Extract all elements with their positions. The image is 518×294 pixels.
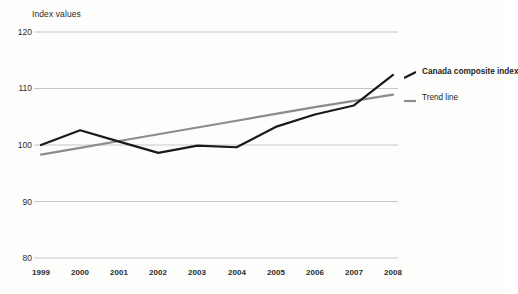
series-canada-composite-index xyxy=(41,75,393,153)
legend-item-trend-line: Trend line xyxy=(404,92,458,102)
legend-item-canada-composite-index: Canada composite index xyxy=(404,66,518,76)
legend-line-swatch-icon xyxy=(404,92,416,102)
legend-label-canada-composite-index: Canada composite index xyxy=(422,67,518,76)
gridlines xyxy=(34,32,398,258)
legend-line-swatch-icon xyxy=(404,66,416,76)
legend-label-trend-line: Trend line xyxy=(422,93,458,102)
